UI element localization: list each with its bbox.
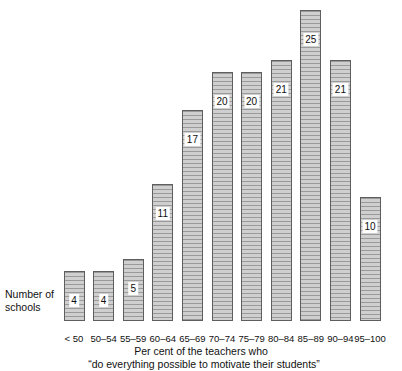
bar-value-label: 11: [156, 207, 170, 220]
bar-value-label: 25: [303, 33, 318, 46]
y-axis-label-line-2: schools: [5, 301, 41, 313]
bar-value-label: 4: [69, 294, 79, 307]
x-axis-label: Per cent of the teachers who “do everyth…: [0, 345, 402, 370]
x-axis-tick-label: 75–79: [238, 333, 264, 344]
bar-value-label: 20: [244, 95, 259, 108]
bar-value-label: 5: [128, 282, 138, 295]
x-axis-tick-label: 95–100: [354, 333, 386, 344]
bar: 21: [271, 60, 292, 321]
x-axis-tick-label: 65–69: [179, 333, 205, 344]
bar: 21: [330, 60, 351, 321]
bar: 20: [241, 72, 262, 321]
y-axis-label: Number of schools: [5, 288, 67, 313]
x-axis-tick-label: 55–59: [120, 333, 146, 344]
x-axis-tick-label: 70–74: [209, 333, 235, 344]
bar-value-label: 21: [274, 83, 289, 96]
x-axis-tick-label: 60–64: [150, 333, 176, 344]
bar-value-label: 10: [362, 220, 377, 233]
x-axis-label-line-1: Per cent of the teachers who: [0, 345, 402, 358]
bar: 11: [152, 184, 173, 321]
bar: 4: [93, 271, 114, 321]
bar-value-label: 20: [214, 95, 229, 108]
bar-value-label: 21: [333, 83, 348, 96]
bar: 5: [123, 259, 144, 321]
bar: 17: [182, 110, 203, 321]
bar: 25: [300, 10, 321, 321]
x-axis-tick-label: < 50: [65, 333, 84, 344]
y-axis-label-line-1: Number of: [5, 288, 54, 300]
bar-chart-figure: 4451117202021252110 Number of schools Pe…: [0, 0, 402, 371]
x-axis-tick-label: 90–94: [327, 333, 353, 344]
bar-value-label: 4: [99, 294, 109, 307]
plot-area: 4451117202021252110: [0, 0, 402, 321]
bar-value-label: 17: [185, 133, 200, 146]
x-axis-tick-label: 80–84: [268, 333, 294, 344]
x-axis-label-line-2: “do everything possible to motivate thei…: [6, 358, 402, 371]
x-axis-tick-label: 85–89: [298, 333, 324, 344]
bar: 20: [212, 72, 233, 321]
bar: 10: [360, 197, 381, 321]
x-axis-tick-label: 50–54: [90, 333, 116, 344]
